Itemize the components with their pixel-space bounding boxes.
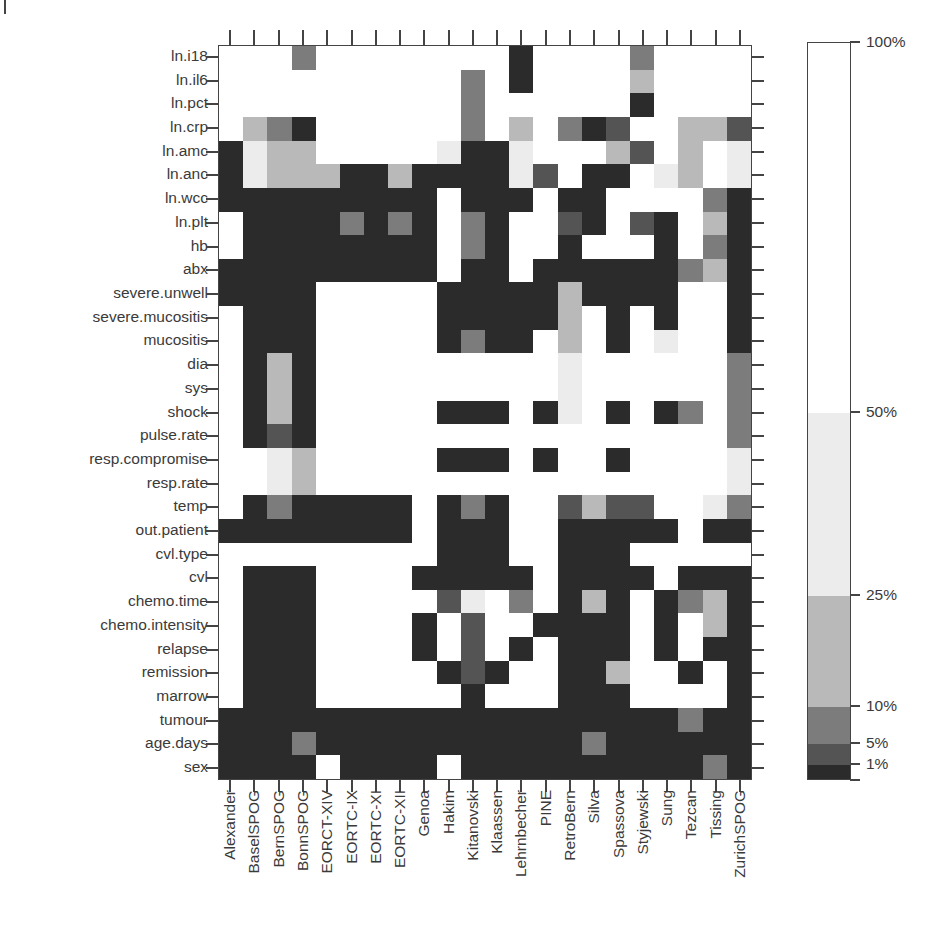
heatmap-cell	[630, 495, 654, 519]
heatmap-cell	[630, 212, 654, 236]
heatmap-cell	[606, 330, 630, 354]
heatmap-cell	[219, 755, 243, 779]
heatmap-cell	[292, 590, 316, 614]
heatmap-cell	[558, 708, 582, 732]
tick-mark	[399, 30, 401, 45]
heatmap-cell	[509, 282, 533, 306]
heatmap-cell	[630, 117, 654, 141]
heatmap-cell	[412, 330, 436, 354]
heatmap-cell	[243, 755, 267, 779]
heatmap-cell	[582, 472, 606, 496]
heatmap-cell	[678, 282, 702, 306]
heatmap-cell	[340, 448, 364, 472]
heatmap-cell	[219, 141, 243, 165]
heatmap-cell	[388, 661, 412, 685]
tick-mark	[752, 601, 764, 603]
tick-mark	[206, 767, 218, 769]
heatmap-cell	[654, 188, 678, 212]
heatmap-cell	[461, 708, 485, 732]
heatmap-cell	[509, 495, 533, 519]
heatmap-cell	[437, 46, 461, 70]
heatmap-cell	[340, 212, 364, 236]
heatmap-cell	[243, 141, 267, 165]
color-legend	[807, 42, 851, 780]
heatmap-cell	[388, 424, 412, 448]
heatmap-cell	[388, 282, 412, 306]
heatmap-cell	[703, 353, 727, 377]
heatmap-cell	[533, 188, 557, 212]
y-axis-label: ln.anc	[167, 166, 208, 182]
heatmap-cell	[292, 141, 316, 165]
heatmap-cell	[533, 661, 557, 685]
heatmap-cell	[243, 519, 267, 543]
heatmap-cell	[606, 70, 630, 94]
heatmap-cell	[461, 448, 485, 472]
heatmap-cell	[606, 637, 630, 661]
heatmap-cell	[703, 306, 727, 330]
heatmap-cell	[316, 424, 340, 448]
heatmap-cell	[558, 93, 582, 117]
heatmap-cell	[340, 684, 364, 708]
heatmap-grid	[219, 46, 751, 779]
heatmap-cell	[316, 164, 340, 188]
heatmap-cell	[703, 93, 727, 117]
legend-tick-mark	[850, 594, 860, 596]
legend-band	[808, 596, 850, 707]
heatmap-cell	[654, 519, 678, 543]
tick-mark	[752, 720, 764, 722]
heatmap-cell	[727, 377, 751, 401]
y-axis-label: ln.crp	[170, 119, 208, 135]
heatmap-cell	[533, 543, 557, 567]
heatmap-cell	[292, 259, 316, 283]
heatmap-cell	[437, 495, 461, 519]
heatmap-cell	[654, 235, 678, 259]
heatmap-cell	[243, 70, 267, 94]
heatmap-cell	[316, 212, 340, 236]
heatmap-cell	[461, 330, 485, 354]
heatmap-cell	[678, 306, 702, 330]
heatmap-cell	[437, 188, 461, 212]
heatmap-cell	[485, 637, 509, 661]
heatmap-cell	[582, 637, 606, 661]
tick-mark	[206, 222, 218, 224]
x-axis-label: Styjewski	[635, 790, 651, 855]
heatmap-cell	[485, 424, 509, 448]
heatmap-cell	[582, 330, 606, 354]
heatmap-cell	[654, 424, 678, 448]
heatmap-cell	[364, 212, 388, 236]
heatmap-cell	[606, 401, 630, 425]
heatmap-cell	[437, 164, 461, 188]
heatmap-cell	[292, 164, 316, 188]
tick-mark	[206, 198, 218, 200]
heatmap-cell	[727, 188, 751, 212]
heatmap-cell	[509, 306, 533, 330]
heatmap-cell	[340, 141, 364, 165]
heatmap-cell	[485, 164, 509, 188]
heatmap-cell	[485, 661, 509, 685]
heatmap-cell	[606, 93, 630, 117]
heatmap-cell	[412, 353, 436, 377]
heatmap-cell	[509, 353, 533, 377]
tick-mark	[206, 388, 218, 390]
heatmap-cell	[267, 282, 291, 306]
tick-mark	[206, 364, 218, 366]
heatmap-cell	[727, 708, 751, 732]
heatmap-cell	[267, 353, 291, 377]
heatmap-cell	[558, 377, 582, 401]
tick-mark	[472, 30, 474, 45]
heatmap-cell	[582, 141, 606, 165]
heatmap-cell	[678, 164, 702, 188]
heatmap-cell	[388, 70, 412, 94]
heatmap-cell	[292, 732, 316, 756]
tick-mark	[752, 672, 764, 674]
heatmap-cell	[630, 590, 654, 614]
heatmap-cell	[388, 708, 412, 732]
tick-mark	[752, 246, 764, 248]
y-axis-label: chemo.time	[128, 593, 208, 609]
heatmap-cell	[558, 188, 582, 212]
heatmap-cell	[243, 448, 267, 472]
heatmap-cell	[388, 755, 412, 779]
heatmap-cell	[727, 448, 751, 472]
heatmap-cell	[412, 93, 436, 117]
heatmap-cell	[558, 212, 582, 236]
